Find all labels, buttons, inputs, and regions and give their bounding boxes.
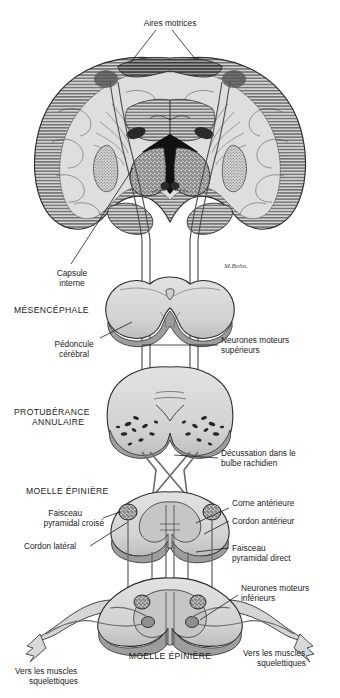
- pyramidal-tract-diagram: Aires motrices Capsule interne M.Bohn. M…: [0, 0, 340, 698]
- label-corne-anterieure-text: Corne antérieure: [232, 498, 295, 508]
- label-capsule-interne-line2: interne: [59, 278, 85, 288]
- putamen-left: [93, 145, 117, 191]
- artist-signature: M.Bohn.: [223, 262, 248, 270]
- lateral-corticospinal-tract-left: [119, 504, 137, 520]
- label-protuberance-line1: PROTUBÉRANCE: [14, 407, 90, 417]
- label-capsule-interne-line1: Capsule: [57, 268, 88, 278]
- label-faisceau-croise-line2: pyramidal croisé: [44, 518, 105, 528]
- label-muscles-droite-line1: Vers les muscles: [243, 648, 305, 658]
- motor-area-left: [94, 70, 118, 88]
- label-cordon-lateral-text: Cordon latéral: [24, 541, 76, 551]
- label-faisceau-direct-line1: Faisceau: [232, 543, 266, 553]
- label-neurones-inf-line1: Neurones moteurs: [241, 583, 309, 593]
- lower-lateral-tract-right: [190, 595, 206, 609]
- label-muscles-droite-line2: squelettiques: [257, 658, 306, 668]
- mammillary-right: [171, 182, 180, 190]
- lower-motor-neuron-right: [186, 617, 199, 628]
- label-aires-motrices-text: Aires motrices: [144, 18, 197, 28]
- label-cordon-anterieur-text: Cordon antérieur: [232, 516, 295, 526]
- lateral-corticospinal-tract-right: [203, 504, 221, 520]
- label-protuberance-line2: ANNULAIRE: [32, 417, 84, 427]
- label-muscles-gauche-line1: Vers les muscles: [15, 666, 77, 676]
- label-neurones-sup-line2: supérieurs: [221, 345, 260, 355]
- mammillary-left: [161, 182, 170, 190]
- label-faisceau-croise-line1: Faisceau: [48, 508, 82, 518]
- label-moelle-epiniere-haut: MOELLE ÉPINIÈRE: [26, 486, 109, 496]
- cerebral-hemispheres-coronal-section: [34, 57, 305, 234]
- label-moelle-epiniere-bas: MOELLE ÉPINIÈRE: [129, 651, 212, 661]
- upper-cord-gray-matter: [139, 502, 201, 548]
- lower-motor-neuron-left: [142, 617, 155, 628]
- lower-lateral-tract-left: [134, 595, 150, 609]
- label-neurones-sup-line1: Neurones moteurs: [221, 335, 289, 345]
- motor-area-right: [222, 70, 246, 88]
- putamen-right: [222, 145, 246, 191]
- label-faisceau-direct-line2: pyramidal direct: [232, 553, 291, 563]
- label-decussation-line2: bulbe rachidien: [221, 458, 278, 468]
- label-muscles-gauche-line2: squelettiques: [29, 676, 78, 686]
- label-decussation-line1: Décussation dans le: [221, 448, 296, 458]
- label-mesencephale: MÉSENCÉPHALE: [14, 305, 89, 315]
- label-neurones-inf-line2: inférieurs: [241, 593, 275, 603]
- label-pedoncule-line2: cérébral: [59, 349, 89, 359]
- label-pedoncule-line1: Pédoncule: [54, 339, 94, 349]
